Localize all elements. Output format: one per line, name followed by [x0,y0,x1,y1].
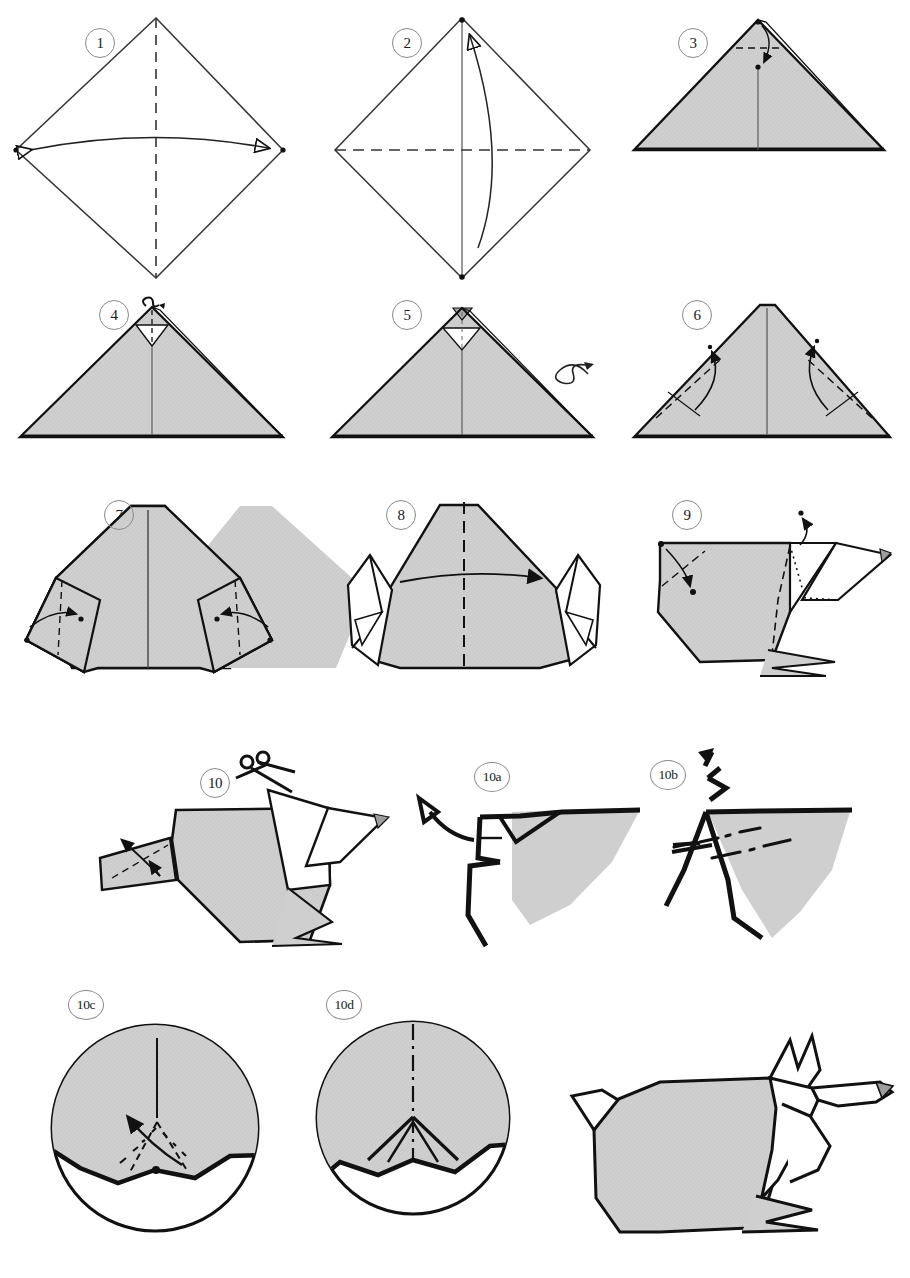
step-badge-6: 6 [682,300,712,330]
step-3-figure [634,19,884,150]
step-badge-9: 9 [672,500,702,530]
step-badge-8: 8 [386,500,416,530]
step-10b-figure [666,748,852,938]
step-10d-figure [300,1005,530,1214]
step-6-figure [634,305,890,437]
step-badge-10: 10 [200,768,230,798]
step-4-figure [20,298,283,437]
step-10-figure [100,752,389,946]
step-8-figure [348,502,600,672]
step-2-figure [335,17,590,280]
tail [100,838,176,890]
step-badge-10a: 10a [474,762,510,792]
step-badge-3: 3 [678,28,708,58]
step-9-figure [658,510,891,676]
step-badge-10d: 10d [326,990,362,1020]
step-badge-5: 5 [392,300,422,330]
turn-over-arrow [556,365,588,384]
small-fold-arrow [143,298,159,307]
step-10c-figure [40,1010,270,1231]
step-5-figure [332,308,594,437]
step-badge-2: 2 [392,28,422,58]
origami-instruction-sheet: 1 2 3 4 5 6 7 8 9 10 10a 10b 10c 10d [0,0,910,1278]
step-badge-1: 1 [85,28,115,58]
fold-arrow [470,36,492,248]
legs [760,650,835,676]
step-badge-7: 7 [104,500,134,530]
fold-arrow [800,519,807,545]
final-figure [572,1036,893,1232]
diagram-canvas [0,0,910,1278]
step-badge-4: 4 [99,300,129,330]
scissors-icon [236,752,295,792]
step-badge-10b: 10b [650,760,686,790]
top-edge [706,810,852,812]
step-badge-10c: 10c [68,990,104,1020]
step-1-figure [13,18,285,278]
step-10a-figure [419,798,640,946]
step-7-figure [18,506,382,672]
double-arrow [30,137,268,150]
